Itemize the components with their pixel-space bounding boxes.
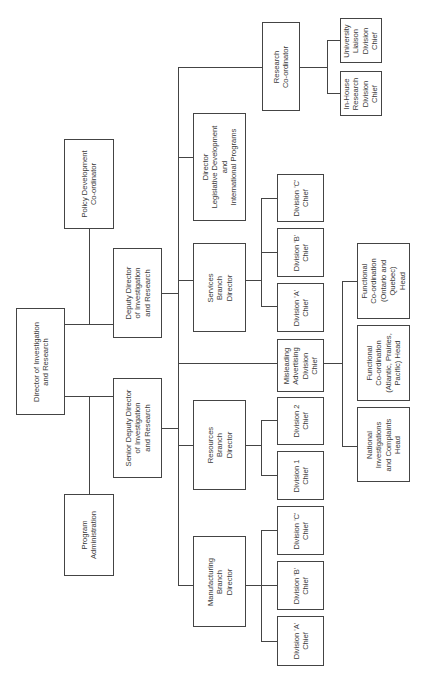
functional-atlantic-label: Functional Co-ordination (Atlantic, Prai… — [365, 333, 403, 393]
connector — [261, 530, 277, 531]
program-administration-box: Program Administration — [64, 494, 114, 576]
connector — [324, 363, 342, 364]
resources-branch-box: Resources Branch Director — [193, 400, 246, 490]
manufacturing-division-a-box: Division 'A' Chief — [277, 616, 324, 666]
connector — [261, 198, 277, 199]
research-coordinator-label: Research Co-ordinator — [272, 45, 291, 87]
resources-branch-label: Resources Branch Director — [205, 427, 233, 463]
connector — [261, 641, 277, 642]
connector — [89, 229, 90, 324]
director-box: Director of Investigation and Research — [16, 308, 65, 415]
connector — [162, 293, 178, 294]
backbone-line — [178, 67, 179, 586]
university-liaison-label: University Liaison Division Chief — [342, 24, 380, 57]
connector — [246, 445, 261, 446]
policy-development-label: Policy Development Co-ordinator — [80, 150, 99, 217]
connector — [65, 324, 113, 325]
connector — [261, 475, 277, 476]
director-label: Director of Investigation and Research — [31, 322, 50, 402]
services-branch-label: Services Branch Director — [205, 273, 233, 302]
national-investigations-box: National Investigations and Complaints H… — [357, 407, 410, 482]
connector — [178, 157, 193, 158]
senior-deputy-director-label: Senior Deputy Director of Investigation … — [123, 390, 151, 467]
connector — [261, 252, 277, 253]
services-division-a-box: Division 'A' Chief — [277, 283, 324, 332]
deputy-director-box: Deputy Director of Investigation and Res… — [113, 248, 162, 338]
connector — [162, 428, 178, 429]
connector — [178, 280, 193, 281]
connector — [261, 420, 262, 475]
services-division-b-box: Division 'B' Chief — [277, 228, 324, 277]
services-division-c-label: Division 'C' Chief — [291, 179, 310, 216]
connector — [246, 585, 261, 586]
resources-division-2-label: Division 2 Chief — [291, 405, 310, 438]
legislative-director-box: Director Legislative Development and Int… — [193, 113, 246, 221]
misleading-advertising-label: Misleading Advertising Division Chief — [282, 347, 320, 385]
connector — [178, 363, 277, 364]
connector — [342, 281, 343, 446]
inhouse-research-label: In-House Research Division Chief — [342, 77, 380, 110]
manufacturing-division-b-box: Division 'B' Chief — [277, 561, 324, 610]
connector — [89, 396, 90, 494]
connector — [178, 445, 193, 446]
manufacturing-branch-label: Manufacturing Branch Director — [205, 557, 233, 605]
connector — [178, 67, 262, 68]
functional-ontario-quebec-label: Functional Co-ordination (Ontario and Qu… — [360, 258, 407, 304]
deputy-director-label: Deputy Director of Investigation and Res… — [123, 267, 151, 320]
legislative-director-label: Director Legislative Development and Int… — [201, 126, 239, 209]
manufacturing-branch-box: Manufacturing Branch Director — [193, 536, 246, 627]
connector — [178, 585, 193, 586]
connector — [327, 93, 340, 94]
misleading-advertising-box: Misleading Advertising Division Chief — [277, 339, 324, 392]
connector — [342, 281, 357, 282]
services-branch-box: Services Branch Director — [193, 243, 246, 332]
connector — [327, 40, 328, 93]
policy-development-box: Policy Development Co-ordinator — [64, 139, 114, 229]
senior-deputy-director-box: Senior Deputy Director of Investigation … — [113, 378, 162, 478]
manufacturing-division-b-label: Division 'B' Chief — [291, 567, 310, 604]
program-administration-label: Program Administration — [80, 511, 99, 559]
functional-ontario-quebec-box: Functional Co-ordination (Ontario and Qu… — [357, 243, 410, 319]
connector — [246, 280, 261, 281]
manufacturing-division-c-box: Division 'C' Chief — [277, 506, 324, 555]
inhouse-research-box: In-House Research Division Chief — [340, 71, 382, 116]
resources-division-1-box: Division 1 Chief — [277, 451, 324, 500]
connector — [261, 306, 277, 307]
connector — [300, 67, 327, 68]
services-division-b-label: Division 'B' Chief — [291, 234, 310, 271]
connector — [261, 585, 277, 586]
connector — [342, 446, 357, 447]
university-liaison-box: University Liaison Division Chief — [340, 18, 382, 63]
functional-atlantic-box: Functional Co-ordination (Atlantic, Prai… — [357, 325, 410, 401]
national-investigations-label: National Investigations and Complaints H… — [365, 418, 403, 471]
resources-division-1-label: Division 1 Chief — [291, 459, 310, 492]
connector — [261, 420, 277, 421]
manufacturing-division-c-label: Division 'C' Chief — [291, 512, 310, 549]
manufacturing-division-a-label: Division 'A' Chief — [291, 623, 310, 660]
services-division-a-label: Division 'A' Chief — [291, 289, 310, 326]
connector — [327, 40, 340, 41]
resources-division-2-box: Division 2 Chief — [277, 397, 324, 445]
research-coordinator-box: Research Co-ordinator — [262, 22, 300, 111]
services-division-c-box: Division 'C' Chief — [277, 174, 324, 222]
